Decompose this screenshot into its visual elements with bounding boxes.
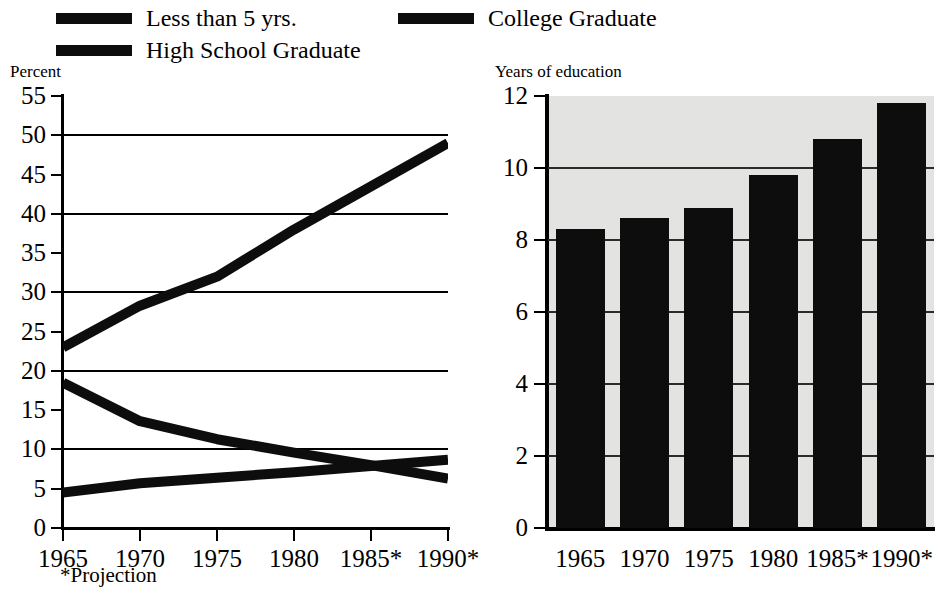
- bar: [877, 103, 926, 528]
- right-chart-plot-area: [548, 96, 934, 528]
- left-chart-footnote: *Projection: [60, 565, 157, 586]
- left-chart-y-tick-label: 10: [0, 436, 46, 461]
- legend-item-college-graduate: College Graduate: [398, 6, 657, 30]
- left-chart-y-tick-label: 25: [0, 319, 46, 344]
- right-chart-gridline: [548, 455, 934, 457]
- left-chart-series-lines: [63, 96, 448, 528]
- right-chart-axis-title: Years of education: [495, 63, 622, 80]
- bar-chart-years-of-education: Years of education 121086420 19651970197…: [470, 60, 934, 603]
- legend-item-less-than-5-yrs: Less than 5 yrs.: [56, 6, 297, 30]
- left-chart-y-tick-label: 20: [0, 358, 46, 383]
- left-chart-axis-title: Percent: [10, 63, 61, 80]
- left-chart-x-tick-mark: [370, 529, 372, 541]
- right-chart-y-tick-label: 8: [470, 227, 528, 252]
- left-chart-y-tick-label: 50: [0, 122, 46, 147]
- legend-swatch-less-than-5-yrs: [56, 13, 132, 24]
- legend-swatch-high-school-graduate: [56, 45, 132, 56]
- right-chart-y-tick-label: 10: [470, 155, 528, 180]
- left-chart-x-tick-mark: [62, 529, 64, 541]
- right-chart-x-tick-label: 1990*: [842, 546, 939, 571]
- bar: [556, 229, 605, 528]
- line-chart-percent: Percent 5550454035302520151050 196519701…: [0, 60, 470, 603]
- line-series-college-graduate: [63, 143, 448, 347]
- legend-label-college-graduate: College Graduate: [488, 6, 657, 30]
- legend-label-high-school-graduate: High School Graduate: [146, 38, 361, 62]
- line-series-high-school-graduate: [63, 460, 448, 493]
- left-chart-y-tick-label: 55: [0, 83, 46, 108]
- legend-item-high-school-graduate: High School Graduate: [56, 38, 361, 62]
- left-chart-y-tick-label: 0: [0, 515, 46, 540]
- left-chart-x-tick-mark: [139, 529, 141, 541]
- left-chart-y-tick-label: 30: [0, 279, 46, 304]
- left-chart-y-tick-label: 35: [0, 240, 46, 265]
- left-chart-y-tick-label: 45: [0, 162, 46, 187]
- right-chart-y-tick-label: 0: [470, 515, 528, 540]
- left-chart-y-tick-label: 15: [0, 397, 46, 422]
- right-chart-gridline: [548, 383, 934, 385]
- right-chart-gridline: [548, 311, 934, 313]
- right-chart-y-tick-label: 2: [470, 443, 528, 468]
- right-chart-gridline: [548, 167, 934, 169]
- left-chart-x-tick-mark: [216, 529, 218, 541]
- left-chart-y-tick-label: 5: [0, 476, 46, 501]
- right-chart-y-tick-label: 12: [470, 83, 528, 108]
- bar: [620, 218, 669, 528]
- left-chart-x-tick-mark: [293, 529, 295, 541]
- right-chart-y-tick-label: 4: [470, 371, 528, 396]
- right-chart-y-tick-label: 6: [470, 299, 528, 324]
- bar: [749, 175, 798, 528]
- bar: [813, 139, 862, 528]
- left-chart-plot-area: [63, 96, 448, 528]
- bar: [684, 208, 733, 528]
- right-chart-gridline: [548, 239, 934, 241]
- chart-legend: Less than 5 yrs. College Graduate High S…: [0, 0, 934, 60]
- legend-swatch-college-graduate: [398, 13, 474, 24]
- legend-label-less-than-5-yrs: Less than 5 yrs.: [146, 6, 297, 30]
- left-chart-x-tick-mark: [447, 529, 449, 541]
- left-chart-y-tick-label: 40: [0, 201, 46, 226]
